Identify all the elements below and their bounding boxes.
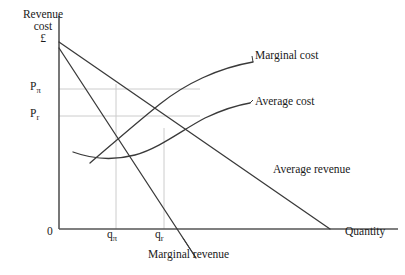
y-tick-p-pi-subscript: π <box>36 85 40 95</box>
annotation-marginal-cost: Marginal cost <box>255 49 318 61</box>
curve-marginal-cost <box>90 62 253 163</box>
annotation-average-revenue: Average revenue <box>273 163 350 175</box>
x-tick-label-q-pi: qπ <box>107 228 117 243</box>
y-axis-title-line1: Revenue <box>14 8 72 20</box>
leader-line-average-cost <box>250 100 253 103</box>
y-tick-p-r-subscript: r <box>36 112 39 122</box>
leader-line-marginal-cost <box>252 56 253 62</box>
axes <box>59 16 398 229</box>
x-axis-title: Quantity <box>345 225 385 237</box>
y-axis-title-line3: £ <box>14 32 72 44</box>
curve-average-revenue <box>59 42 330 229</box>
y-axis-title-line2: cost <box>14 20 72 32</box>
y-tick-label-p-r: Pr <box>30 107 39 122</box>
curve-marginal-revenue <box>59 48 196 258</box>
y-axis-title: Revenue cost £ <box>14 8 72 44</box>
x-tick-label-q-r: qr <box>155 228 164 243</box>
x-tick-q-pi-subscript: π <box>113 233 117 243</box>
origin-label: 0 <box>47 225 53 237</box>
data-curves <box>59 42 330 258</box>
x-tick-q-r-subscript: r <box>161 233 164 243</box>
annotation-marginal-revenue: Marginal revenue <box>148 248 229 260</box>
y-tick-label-p-pi: Pπ <box>30 80 41 95</box>
annotation-average-cost: Average cost <box>255 95 315 107</box>
annotation-leaders <box>183 56 253 258</box>
